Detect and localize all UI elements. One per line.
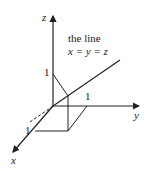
y-tick-label: 1 (85, 91, 91, 102)
x-tick-label: 1 (25, 125, 31, 136)
title-line-2: x = y = z (68, 46, 108, 57)
y-axis-label: y (134, 110, 139, 121)
z-tick-label: 1 (44, 67, 50, 78)
base-right (68, 106, 87, 131)
title-line-1: the line (68, 33, 101, 44)
diagram-3d-axes: z the line x = y = z 1 1 y 1 x (0, 0, 151, 172)
x-axis (13, 106, 53, 152)
axes-drawing (0, 0, 151, 172)
x-axis-label: x (11, 155, 16, 166)
z-axis-label: z (42, 12, 46, 23)
z1-to-point (53, 74, 68, 96)
